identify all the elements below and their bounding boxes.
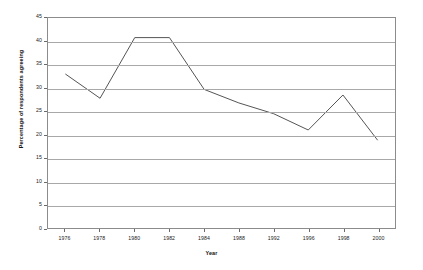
x-axis-tick-label: 1998 — [327, 236, 361, 241]
y-axis-tick-mark — [44, 229, 47, 230]
y-axis-tick-mark — [44, 64, 47, 65]
x-axis-tick-label: 1988 — [222, 236, 256, 241]
gridline — [48, 136, 395, 137]
x-axis-tick-label: 1984 — [187, 236, 221, 241]
y-axis-tick-mark — [44, 111, 47, 112]
y-axis-title: Percentage of respondents agreeing — [18, 29, 24, 169]
x-axis-tick-label: 1996 — [292, 236, 326, 241]
gridline — [48, 183, 395, 184]
data-line-svg — [48, 18, 395, 228]
x-axis-tick-mark — [309, 229, 310, 232]
x-axis-tick-mark — [344, 229, 345, 232]
y-axis-tick-label: 10 — [18, 179, 42, 184]
y-axis-tick-mark — [44, 41, 47, 42]
x-axis-tick-mark — [64, 229, 65, 232]
x-axis-tick-mark — [204, 229, 205, 232]
gridline — [48, 89, 395, 90]
gridline — [48, 159, 395, 160]
y-axis-tick-label: 5 — [18, 202, 42, 207]
x-axis-tick-mark — [274, 229, 275, 232]
y-axis-tick-label: 45 — [18, 14, 42, 19]
x-axis-tick-label: 1978 — [82, 236, 116, 241]
x-axis-tick-mark — [99, 229, 100, 232]
x-axis-tick-label: 1982 — [152, 236, 186, 241]
x-axis-tick-label: 1976 — [47, 236, 81, 241]
x-axis-tick-label: 2000 — [362, 236, 396, 241]
x-axis-tick-mark — [239, 229, 240, 232]
x-axis-tick-mark — [134, 229, 135, 232]
y-axis-tick-mark — [44, 182, 47, 183]
x-axis-tick-mark — [169, 229, 170, 232]
gridline — [48, 112, 395, 113]
x-axis-tick-label: 1980 — [117, 236, 151, 241]
gridline — [48, 206, 395, 207]
y-axis-tick-mark — [44, 205, 47, 206]
x-axis-tick-label: 1992 — [257, 236, 291, 241]
y-axis-tick-label: 0 — [18, 226, 42, 231]
y-axis-tick-mark — [44, 17, 47, 18]
plot-area — [47, 17, 396, 229]
x-axis-title: Year — [0, 250, 423, 256]
x-axis-tick-mark — [379, 229, 380, 232]
line-chart: 051015202530354045 197619781980198219841… — [0, 0, 423, 270]
y-axis-tick-mark — [44, 158, 47, 159]
y-axis-tick-mark — [44, 135, 47, 136]
gridline — [48, 65, 395, 66]
y-axis-tick-mark — [44, 88, 47, 89]
gridline — [48, 42, 395, 43]
